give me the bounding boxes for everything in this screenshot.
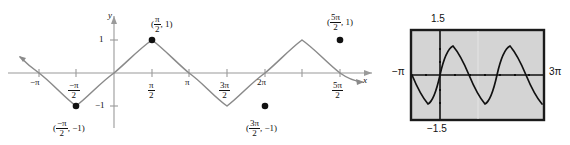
point-label-neg-half-pi-close: , −1) [68, 124, 85, 133]
x-axis-label: x [363, 76, 367, 85]
x-tick-3pi-over-2-denominator: 2 [221, 91, 228, 100]
x-tick-label-pi: π [185, 78, 190, 87]
y-axis-label: y [108, 11, 112, 20]
x-tick-neg-pi-over-2-denominator: 2 [71, 91, 78, 100]
calculator-ymin-label: −1.5 [427, 124, 447, 134]
y-tick-label-neg1: −1 [95, 101, 105, 110]
x-tick-label-3pi-over-2: 3π 2 [219, 77, 230, 100]
x-tick-label-neg-pi: −π [30, 78, 40, 87]
point-maximum-half-pi[interactable] [149, 37, 156, 44]
point-label-three-half-pi: ( 3π 2 , −1) [246, 119, 277, 138]
point-minimum-three-half-pi[interactable] [262, 103, 269, 110]
point-label-neg-half-pi-denominator: 2 [59, 129, 66, 138]
point-label-three-half-pi-close: , −1) [260, 124, 277, 133]
point-label-half-pi-denominator: 2 [154, 25, 161, 34]
x-tick-label-pi-over-2: π 2 [148, 77, 155, 100]
point-label-half-pi-close: , 1) [161, 20, 173, 29]
point-label-three-half-pi-denominator: 2 [251, 129, 258, 138]
point-label-half-pi: ( π 2 , 1) [151, 15, 173, 34]
x-tick-label-2pi: 2π [257, 78, 266, 87]
y-tick-label-1: 1 [99, 35, 104, 44]
point-label-five-half-pi-close: , 1) [341, 18, 353, 27]
x-tick-5pi-over-2-denominator: 2 [334, 91, 341, 100]
point-label-five-half-pi: ( 5π 2 , 1) [327, 13, 353, 32]
x-tick-label-5pi-over-2: 5π 2 [332, 77, 343, 100]
point-minimum-neg-half-pi[interactable] [73, 103, 80, 110]
point-label-neg-half-pi: ( −π 2 , −1) [53, 119, 85, 138]
calculator-xmax-label: 3π [549, 67, 561, 77]
calculator-ymax-label: 1.5 [431, 14, 445, 24]
point-label-five-half-pi-denominator: 2 [332, 23, 339, 32]
main-graph [8, 16, 372, 128]
calculator-xmin-label: −π [392, 67, 405, 77]
x-tick-label-neg-pi-over-2: −π 2 [68, 77, 80, 100]
x-tick-pi-over-2-denominator: 2 [148, 91, 155, 100]
calculator-screen [411, 30, 544, 120]
figure-canvas [0, 0, 570, 145]
point-maximum-five-half-pi[interactable] [337, 37, 344, 44]
